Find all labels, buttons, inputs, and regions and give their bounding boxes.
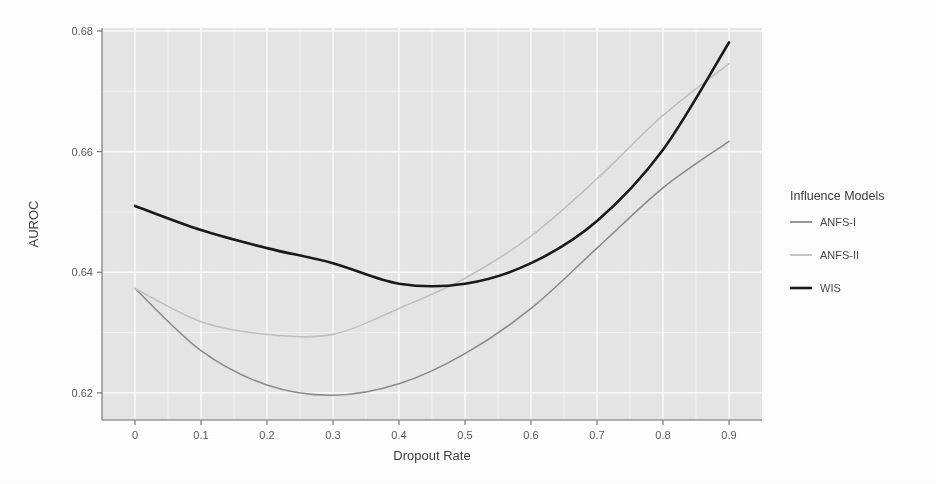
x-tick-label: 0.9 xyxy=(721,429,736,441)
x-tick-label: 0.8 xyxy=(655,429,670,441)
x-tick-label: 0.3 xyxy=(325,429,340,441)
auroc-dropout-line-chart: 00.10.20.30.40.50.60.70.80.9 0.620.640.6… xyxy=(0,0,936,484)
x-axis-title: Dropout Rate xyxy=(393,448,470,463)
y-tick-label: 0.64 xyxy=(72,266,93,278)
y-axis-title: AUROC xyxy=(26,201,41,248)
legend-label-anfs-ii: ANFS-II xyxy=(820,249,859,261)
legend-label-anfs-i: ANFS-I xyxy=(820,216,856,228)
chart-figure: 00.10.20.30.40.50.60.70.80.9 0.620.640.6… xyxy=(0,0,936,484)
x-tick-label: 0.5 xyxy=(457,429,472,441)
legend-label-wis: WIS xyxy=(820,282,841,294)
y-tick-label: 0.62 xyxy=(72,387,93,399)
y-tick-label: 0.66 xyxy=(72,146,93,158)
y-tick-label: 0.68 xyxy=(72,25,93,37)
x-tick-label: 0.2 xyxy=(259,429,274,441)
x-tick-label: 0.7 xyxy=(589,429,604,441)
x-tick-label: 0.1 xyxy=(193,429,208,441)
x-tick-label: 0 xyxy=(132,429,138,441)
x-tick-label: 0.6 xyxy=(523,429,538,441)
x-tick-label: 0.4 xyxy=(391,429,406,441)
legend-title: Influence Models xyxy=(790,189,885,203)
